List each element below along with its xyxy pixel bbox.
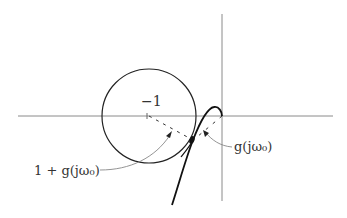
g-arrowhead-icon bbox=[203, 130, 209, 137]
minus-one-label: −1 bbox=[141, 93, 162, 109]
one-plus-g-leader bbox=[100, 135, 170, 170]
g-leader bbox=[206, 133, 232, 147]
g-vector bbox=[197, 116, 222, 137]
one-plus-g-arrowhead-icon bbox=[166, 131, 172, 138]
one-plus-g-label: 1 + g(jω₀) bbox=[34, 163, 100, 178]
nyquist-curve bbox=[172, 107, 222, 205]
nyquist-diagram: −1 1 + g(jω₀) g(jω₀) bbox=[0, 0, 347, 218]
g-label: g(jω₀) bbox=[234, 139, 272, 154]
